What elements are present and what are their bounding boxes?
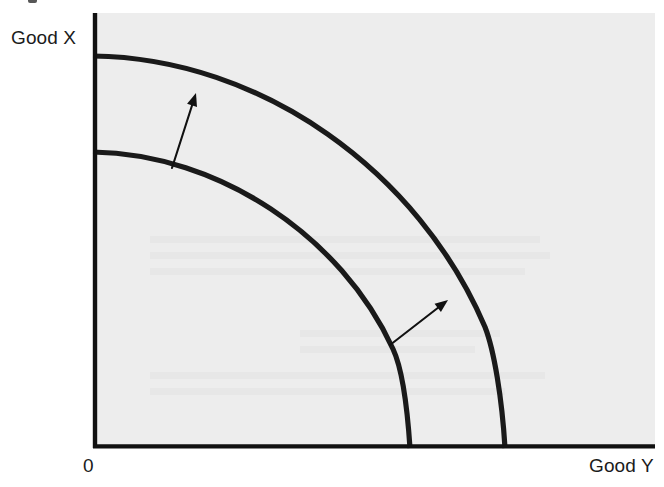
origin-label: 0 [83,456,94,475]
ppf-chart-canvas [0,0,664,487]
plot-area-background [93,13,655,448]
y-axis-label: Good X [11,28,76,47]
ppf-figure: Good X 0 Good Y [0,0,664,487]
x-axis-label: Good Y [589,456,654,475]
